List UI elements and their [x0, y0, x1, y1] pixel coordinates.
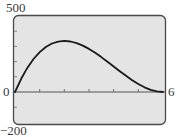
chart-plot: [0, 0, 177, 137]
x-min-label: 0: [3, 85, 10, 98]
plot-frame: [14, 16, 166, 125]
y-max-label: 500: [6, 1, 26, 14]
y-min-label: −200: [0, 124, 27, 137]
x-max-label: 6: [168, 85, 175, 98]
